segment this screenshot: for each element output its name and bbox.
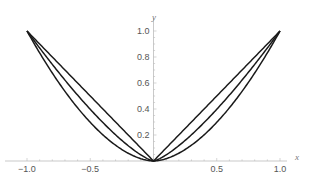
y-axis-label: y: [151, 12, 156, 22]
labels: −1.0−0.50.51.00.20.40.60.81.0xy: [18, 12, 299, 174]
plot-area: −1.0−0.50.51.00.20.40.60.81.0xy: [0, 0, 312, 183]
x-tick-label: −0.5: [81, 164, 99, 174]
y-tick-label: 1.0: [137, 26, 150, 36]
y-tick-label: 0.8: [137, 52, 150, 62]
x-tick-label: 1.0: [274, 164, 287, 174]
x-axis-label: x: [294, 152, 299, 162]
y-tick-label: 0.2: [137, 130, 150, 140]
x-tick-label: −1.0: [18, 164, 36, 174]
x-tick-label: 0.5: [210, 164, 223, 174]
y-tick-label: 0.4: [137, 104, 150, 114]
y-tick-label: 0.6: [137, 78, 150, 88]
